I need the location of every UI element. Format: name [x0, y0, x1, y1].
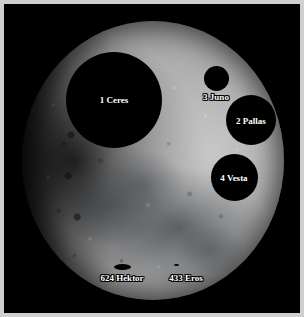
asteroid-label-pallas: 2 Pallas: [236, 117, 266, 126]
asteroid-juno: [204, 66, 229, 91]
asteroid-hektor: [114, 264, 131, 270]
asteroid-eros: [174, 264, 179, 266]
figure-frame: 1 Ceres 3 Juno 2 Pallas 4 Vesta 624 Hekt…: [0, 0, 304, 317]
asteroid-label-hektor: 624 Hektor: [100, 274, 143, 283]
asteroid-label-ceres: 1 Ceres: [100, 96, 129, 105]
asteroid-label-eros: 433 Eros: [169, 274, 203, 283]
image-plate: 1 Ceres 3 Juno 2 Pallas 4 Vesta 624 Hekt…: [4, 4, 300, 313]
asteroid-label-vesta: 4 Vesta: [220, 174, 247, 183]
asteroid-label-juno: 3 Juno: [203, 93, 229, 102]
